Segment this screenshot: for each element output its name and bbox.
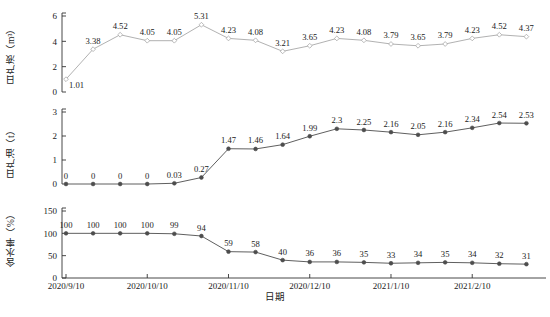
data-point [470, 36, 475, 41]
data-point [307, 43, 312, 48]
data-point [145, 231, 149, 235]
data-point-label: 0.27 [194, 164, 210, 174]
ytick-label: 100 [44, 229, 58, 239]
data-point-label: 35 [441, 249, 450, 259]
data-point-label: 1.99 [302, 123, 317, 133]
data-point-label: 35 [360, 249, 369, 259]
series-oil: 012300000.030.271.471.461.641.992.32.252… [53, 107, 534, 189]
data-point [389, 261, 393, 265]
data-point [524, 121, 528, 125]
data-point [254, 147, 258, 151]
data-point-label: 1.46 [248, 135, 264, 145]
data-point [416, 133, 420, 137]
data-point-label: 5.31 [194, 11, 209, 21]
data-point [443, 42, 448, 47]
data-point-label: 2.16 [383, 119, 399, 129]
series-water: 0501001501001001001009994595840363635333… [44, 206, 531, 283]
data-point-label: 4.52 [113, 21, 128, 31]
data-point-label: 4.52 [492, 21, 507, 31]
series-liquid: 02461.013.384.524.054.055.314.234.083.21… [53, 11, 535, 97]
data-point-label: 0 [118, 171, 122, 181]
data-point [281, 143, 285, 147]
data-point-label: 2.3 [331, 115, 342, 125]
data-point-label: 58 [251, 239, 260, 249]
data-point-label: 94 [197, 223, 206, 233]
data-point-label: 2.53 [519, 110, 534, 120]
data-point-label: 0 [91, 171, 95, 181]
ytick-label: 4 [53, 37, 58, 47]
ytick-label: 0 [53, 179, 58, 189]
data-point-label: 36 [305, 248, 314, 258]
data-point [362, 128, 366, 132]
data-point-label: 1.47 [221, 135, 237, 145]
data-point [172, 232, 176, 236]
data-point-label: 4.23 [221, 25, 236, 35]
ytick-label: 6 [53, 11, 58, 21]
data-point-label: 34 [414, 249, 423, 259]
panel-daily-liquid: 日产液（m³） 02461.013.384.524.054.055.314.23… [0, 0, 550, 110]
data-point-label: 1.01 [69, 80, 84, 90]
data-point-label: 3.65 [302, 32, 317, 42]
data-point [118, 182, 122, 186]
series-line [66, 25, 526, 79]
data-point [172, 181, 176, 185]
data-point [227, 147, 231, 151]
data-point [362, 260, 366, 264]
xaxis-title: 日期 [0, 289, 550, 303]
data-point-label: 100 [60, 220, 73, 230]
data-point [389, 130, 393, 134]
data-point [281, 258, 285, 262]
data-point-label: 0 [64, 171, 68, 181]
data-point [172, 38, 177, 43]
data-point [308, 260, 312, 264]
data-point [416, 261, 420, 265]
data-point [145, 38, 150, 43]
data-point-label: 4.05 [167, 27, 182, 37]
data-point-label: 100 [141, 220, 154, 230]
data-point [199, 22, 204, 27]
data-point-label: 4.23 [329, 25, 344, 35]
data-point [470, 126, 474, 130]
data-point [280, 49, 285, 54]
plot-area-daily-oil: 012300000.030.271.471.461.641.992.32.252… [0, 100, 550, 200]
data-point-label: 100 [114, 220, 127, 230]
data-point-label: 32 [495, 250, 504, 260]
data-point [443, 260, 447, 264]
data-point [226, 36, 231, 41]
data-point [389, 42, 394, 47]
data-point [118, 32, 123, 37]
data-point [64, 182, 68, 186]
ytick-label: 2 [53, 131, 58, 141]
ytick-label: 50 [48, 251, 58, 261]
data-point-label: 4.37 [519, 23, 535, 33]
data-point [416, 43, 421, 48]
data-point-label: 3.21 [275, 38, 290, 48]
data-point [470, 261, 474, 265]
data-point-label: 2.16 [438, 119, 454, 129]
series-line [66, 233, 526, 264]
data-point [362, 38, 367, 43]
data-point [524, 34, 529, 39]
data-point-label: 36 [333, 248, 342, 258]
series-line [66, 123, 526, 184]
data-point [334, 36, 339, 41]
plot-area-daily-liquid: 02461.013.384.524.054.055.314.234.083.21… [0, 0, 550, 110]
data-point [64, 231, 68, 235]
ytick-label: 3 [53, 107, 58, 117]
data-point [200, 176, 204, 180]
data-point-label: 59 [224, 238, 233, 248]
data-point-label: 4.08 [248, 27, 263, 37]
data-point [91, 182, 95, 186]
data-point [145, 182, 149, 186]
data-point-label: 100 [87, 220, 100, 230]
data-point [497, 121, 501, 125]
ytick-label: 2 [53, 62, 58, 72]
data-point [118, 231, 122, 235]
data-point-label: 99 [170, 220, 179, 230]
data-point [497, 262, 501, 266]
data-point [308, 134, 312, 138]
data-point [443, 130, 447, 134]
data-point-label: 4.23 [465, 25, 480, 35]
data-point-label: 3.38 [86, 36, 101, 46]
data-point-label: 2.25 [356, 117, 371, 127]
